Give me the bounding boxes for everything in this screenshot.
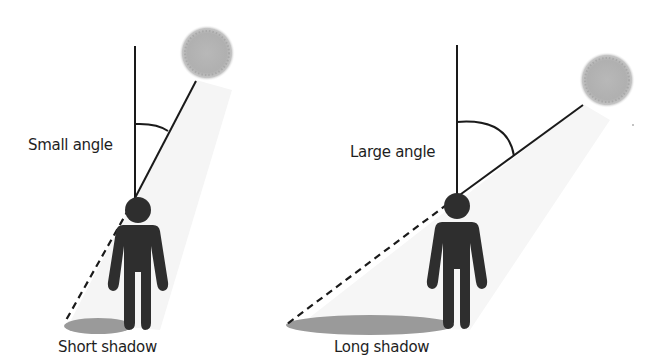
- left-panel: [64, 25, 235, 334]
- angle-arc: [135, 124, 168, 131]
- shadow-label-left: Short shadow: [58, 338, 157, 356]
- angle-label-left: Small angle: [28, 136, 113, 154]
- right-panel: [286, 45, 635, 335]
- shadow-ellipse: [286, 315, 454, 335]
- angle-arc: [457, 122, 514, 156]
- sun-icon: [579, 52, 635, 108]
- sun-icon: [179, 25, 235, 81]
- diagram: Small angle Short shadow Large angle Lon…: [0, 0, 672, 358]
- shadow-ellipse: [64, 318, 132, 334]
- shadow-label-right: Long shadow: [334, 338, 429, 356]
- angle-label-right: Large angle: [350, 143, 435, 161]
